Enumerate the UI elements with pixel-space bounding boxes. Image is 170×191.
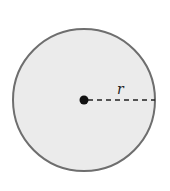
- center-point: [80, 96, 89, 105]
- circle-diagram: r: [0, 0, 170, 191]
